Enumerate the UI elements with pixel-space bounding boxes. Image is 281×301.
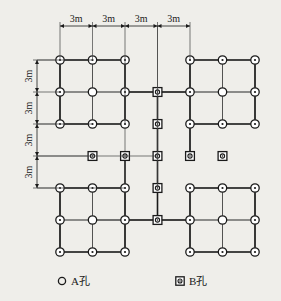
node-a-hole-center <box>59 251 61 253</box>
node-b-hole-center <box>222 155 224 157</box>
node-plain-hole[interactable] <box>88 88 96 96</box>
node-a-hole-center <box>221 187 223 189</box>
node-a-hole-center <box>124 219 126 221</box>
node-a-hole-center <box>254 91 256 93</box>
node-a-hole-center <box>221 251 223 253</box>
dim-left-arrow-3-0 <box>35 156 39 160</box>
node-a-hole-center <box>59 219 61 221</box>
node-plain-hole[interactable] <box>218 88 226 96</box>
node-a-hole-center <box>189 251 191 253</box>
dim-left-arrow-3-1 <box>35 184 39 188</box>
dim-top-label-1: 3m <box>102 13 115 24</box>
node-a-hole-center <box>254 187 256 189</box>
node-a-hole-center <box>189 123 191 125</box>
diagram-canvas: 3m3m3m3m3m3m3m3mA孔B孔 <box>0 0 281 301</box>
node-plain-hole[interactable] <box>88 216 96 224</box>
dim-left-label-2: 3m <box>23 133 34 146</box>
node-b-hole-center <box>157 219 159 221</box>
dim-top-arrow-3-1 <box>186 24 190 28</box>
node-a-hole-center <box>254 251 256 253</box>
dim-top-arrow-3-0 <box>158 24 162 28</box>
dim-top-label-3: 3m <box>167 13 180 24</box>
dim-left-arrow-1-0 <box>35 92 39 96</box>
dim-left-arrow-0-1 <box>35 88 39 92</box>
legend-a-hole-label: A孔 <box>71 275 90 287</box>
dim-top-label-0: 3m <box>70 13 83 24</box>
pile-layout-svg: 3m3m3m3m3m3m3m3mA孔B孔 <box>0 0 281 301</box>
node-b-hole-center <box>189 155 191 157</box>
dim-top-arrow-1-0 <box>93 24 97 28</box>
node-a-hole-center <box>124 251 126 253</box>
node-a-hole-center <box>189 219 191 221</box>
legend-b-hole-label: B孔 <box>189 275 207 287</box>
dim-left-arrow-2-1 <box>35 152 39 156</box>
dim-left-label-0: 3m <box>23 69 34 82</box>
dim-top-arrow-2-0 <box>125 24 129 28</box>
dim-top-arrow-0-0 <box>60 24 64 28</box>
dim-left-arrow-0-0 <box>35 60 39 64</box>
node-plain-hole[interactable] <box>218 216 226 224</box>
node-a-hole-center <box>189 91 191 93</box>
dim-left-label-3: 3m <box>23 165 34 178</box>
node-a-hole-center <box>221 59 223 61</box>
dim-top-arrow-0-1 <box>89 24 93 28</box>
dim-left-label-1: 3m <box>23 101 34 114</box>
dim-top-arrow-2-1 <box>154 24 158 28</box>
node-a-hole-center <box>189 187 191 189</box>
node-a-hole-center <box>254 59 256 61</box>
dim-left-arrow-2-0 <box>35 124 39 128</box>
legend-a-hole-symbol <box>58 277 65 284</box>
dim-left-arrow-1-1 <box>35 120 39 124</box>
dim-top-label-2: 3m <box>135 13 148 24</box>
node-a-hole-center <box>91 251 93 253</box>
node-a-hole-center <box>254 219 256 221</box>
node-a-hole-center <box>254 123 256 125</box>
node-a-hole-center <box>221 123 223 125</box>
legend-b-hole-symbol-center <box>179 280 181 282</box>
dim-top-arrow-1-1 <box>121 24 125 28</box>
